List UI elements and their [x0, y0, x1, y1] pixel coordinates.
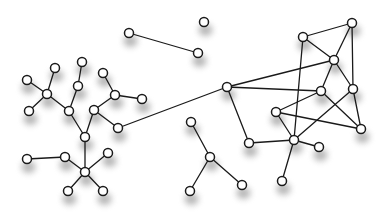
graph-node	[299, 33, 308, 42]
graph-node	[51, 64, 60, 73]
graph-edge	[27, 157, 65, 159]
graph-node	[206, 153, 215, 162]
graph-node	[99, 69, 108, 78]
graph-node	[104, 149, 113, 158]
graph-node	[90, 106, 99, 115]
graph-node	[349, 85, 358, 94]
graph-node	[223, 83, 232, 92]
network-diagram	[0, 0, 387, 220]
graph-node	[125, 29, 134, 38]
graph-edge	[294, 37, 303, 140]
graph-node	[200, 18, 209, 27]
graph-node	[61, 153, 70, 162]
graph-node	[290, 136, 299, 145]
graph-edge	[227, 87, 321, 91]
graph-node	[238, 181, 247, 190]
graph-node	[99, 187, 108, 196]
graph-node	[43, 90, 52, 99]
graph-node	[348, 19, 357, 28]
graph-node	[111, 91, 120, 100]
graph-node	[74, 82, 83, 91]
graph-node	[272, 108, 281, 117]
graph-edge	[129, 33, 198, 53]
graph-node	[317, 87, 326, 96]
graph-node	[194, 49, 203, 58]
graph-edge	[303, 23, 352, 37]
graph-node	[81, 168, 90, 177]
graph-node	[64, 187, 73, 196]
graph-node	[23, 155, 32, 164]
graph-node	[81, 133, 90, 142]
graph-edge	[118, 87, 227, 128]
graph-node	[186, 187, 195, 196]
graph-edge	[227, 87, 249, 143]
graph-node	[187, 118, 196, 127]
graph-node	[23, 76, 32, 85]
graph-edge	[282, 140, 294, 181]
graph-node	[330, 56, 339, 65]
graph-edge	[210, 157, 242, 185]
graph-node	[315, 143, 324, 152]
graph-node	[278, 177, 287, 186]
graph-node	[245, 139, 254, 148]
graph-node	[357, 125, 366, 134]
nodes-layer	[23, 18, 366, 196]
graph-edge	[249, 140, 294, 143]
graph-node	[25, 107, 34, 116]
graph-node	[138, 95, 147, 104]
edges-layer	[27, 23, 361, 191]
graph-edge	[227, 60, 334, 87]
graph-node	[78, 58, 87, 67]
graph-node	[65, 107, 74, 116]
graph-edge	[276, 112, 361, 129]
graph-node	[114, 124, 123, 133]
graph-edge	[191, 122, 210, 157]
graph-edge	[190, 157, 210, 191]
graph-edge	[334, 23, 352, 60]
